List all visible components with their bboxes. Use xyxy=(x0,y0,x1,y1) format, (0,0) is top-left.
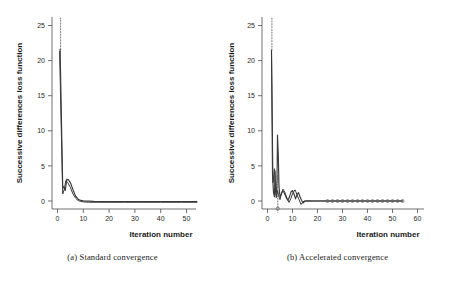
y-tick-label-b-10: 10 xyxy=(247,127,255,134)
x-tick-label-b-60: 60 xyxy=(414,215,422,222)
series-b-secondary-solid xyxy=(272,52,403,204)
y-ticks-a: 0 5 10 15 20 25 xyxy=(37,22,52,205)
plot-standard: 0 5 10 15 20 25 0 10 20 xyxy=(0,0,225,245)
x-tick-label-a-20: 20 xyxy=(105,215,113,222)
series-group-a xyxy=(60,18,197,202)
x-tick-label-a-10: 10 xyxy=(79,215,87,222)
y-tick-label-b-25: 25 xyxy=(247,22,255,29)
plot-accelerated: 0 5 10 15 20 25 0 10 xyxy=(225,0,450,245)
x-tick-label-b-0: 0 xyxy=(266,215,270,222)
series-group-b xyxy=(272,18,405,212)
x-tick-label-b-40: 40 xyxy=(364,215,372,222)
plot-svg-standard: 0 5 10 15 20 25 0 10 20 xyxy=(0,0,225,245)
x-tick-label-b-30: 30 xyxy=(339,215,347,222)
y-tick-label-a-5: 5 xyxy=(41,163,45,170)
panel-standard-convergence: 0 5 10 15 20 25 0 10 20 xyxy=(0,0,225,289)
panel-accelerated-convergence: 0 5 10 15 20 25 0 10 xyxy=(225,0,450,289)
series-b-main-solid xyxy=(272,50,403,203)
x-tick-label-a-50: 50 xyxy=(183,215,191,222)
x-tick-label-b-20: 20 xyxy=(314,215,322,222)
y-tick-label-a-20: 20 xyxy=(37,57,45,64)
y-tick-label-a-15: 15 xyxy=(37,92,45,99)
x-ticks-a: 0 10 20 30 40 50 xyxy=(56,209,191,222)
series-a-solid-lower xyxy=(60,51,197,202)
series-a-solid-upper xyxy=(60,49,197,201)
y-tick-label-a-25: 25 xyxy=(37,22,45,29)
x-tick-label-a-40: 40 xyxy=(157,215,165,222)
y-ticks-b: 0 5 10 15 20 25 xyxy=(247,22,262,205)
x-tick-label-a-30: 30 xyxy=(131,215,139,222)
y-axis-title-a: Successive differences loss function xyxy=(15,43,24,184)
plot-svg-accelerated: 0 5 10 15 20 25 0 10 xyxy=(225,0,451,245)
y-axis-title-b: Successive differences loss function xyxy=(227,43,236,184)
x-ticks-b: 0 10 20 30 40 50 60 xyxy=(266,209,422,222)
x-tick-label-b-10: 10 xyxy=(289,215,297,222)
caption-standard: (a) Standard convergence xyxy=(0,252,225,262)
caption-accelerated: (b) Accelerated convergence xyxy=(225,252,450,262)
y-tick-label-b-0: 0 xyxy=(251,198,255,205)
y-tick-label-a-10: 10 xyxy=(37,127,45,134)
x-axis-title-b: Iteration number xyxy=(356,230,419,239)
x-axis-title-a: Iteration number xyxy=(129,230,192,239)
x-tick-label-a-0: 0 xyxy=(56,215,60,222)
y-tick-label-b-20: 20 xyxy=(247,57,255,64)
y-tick-label-b-15: 15 xyxy=(247,92,255,99)
x-tick-label-b-50: 50 xyxy=(389,215,397,222)
figure-container: 0 5 10 15 20 25 0 10 20 xyxy=(0,0,451,289)
y-tick-label-b-5: 5 xyxy=(251,163,255,170)
y-tick-label-a-0: 0 xyxy=(41,198,45,205)
